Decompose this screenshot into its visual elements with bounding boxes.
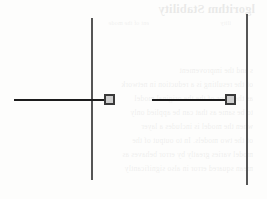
figure-page: lgorithm Stability ility ent of the mode…	[0, 0, 267, 199]
node-marker-right	[225, 94, 236, 105]
diagram	[0, 0, 267, 199]
horizontal-segment-left	[14, 99, 107, 101]
node-marker-left	[104, 94, 115, 105]
horizontal-segment-right	[152, 99, 228, 101]
vertical-axis-right	[246, 14, 248, 185]
